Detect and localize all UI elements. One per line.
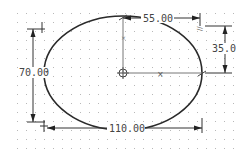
sketch-canvas[interactable]: × × 55.00 // 35.0 70.00 xyxy=(0,0,241,155)
dimension-label-35: 35.0 xyxy=(212,43,236,54)
vertical-constraint-icon: × xyxy=(121,34,126,41)
dimension-label-70: 70.00 xyxy=(19,67,49,78)
horizontal-constraint-icon: × xyxy=(157,70,164,79)
dimension-minor-axis[interactable]: 70.00 xyxy=(18,22,49,122)
dimension-semi-minor[interactable]: 35.0 xyxy=(205,26,241,73)
parallel-constraint-icon: // xyxy=(196,26,204,31)
dimension-major-axis[interactable]: 110.00 xyxy=(40,118,202,134)
dimension-semi-major[interactable]: 55.00 // xyxy=(123,12,204,31)
dimension-label-55: 55.00 xyxy=(143,13,173,24)
dimension-label-110: 110.00 xyxy=(109,123,145,134)
